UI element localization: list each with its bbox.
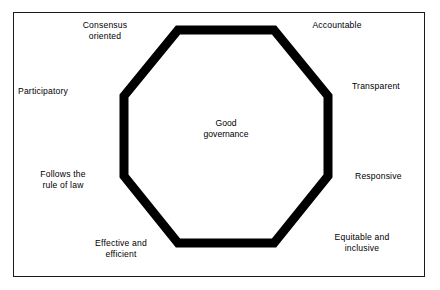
label-effective-and-efficient: Effective and efficient (78, 238, 164, 260)
label-consensus-oriented: Consensus oriented (64, 20, 146, 42)
label-transparent: Transparent (352, 81, 428, 92)
good-governance-diagram: Good governance Consensus oriented Accou… (0, 0, 440, 290)
label-participatory: Participatory (18, 86, 96, 97)
center-label: Good governance (168, 118, 284, 141)
label-equitable-and-inclusive: Equitable and inclusive (316, 232, 408, 254)
label-accountable: Accountable (295, 20, 379, 31)
label-follows-the-rule-of-law: Follows the rule of law (24, 169, 102, 191)
label-responsive: Responsive (355, 171, 429, 182)
